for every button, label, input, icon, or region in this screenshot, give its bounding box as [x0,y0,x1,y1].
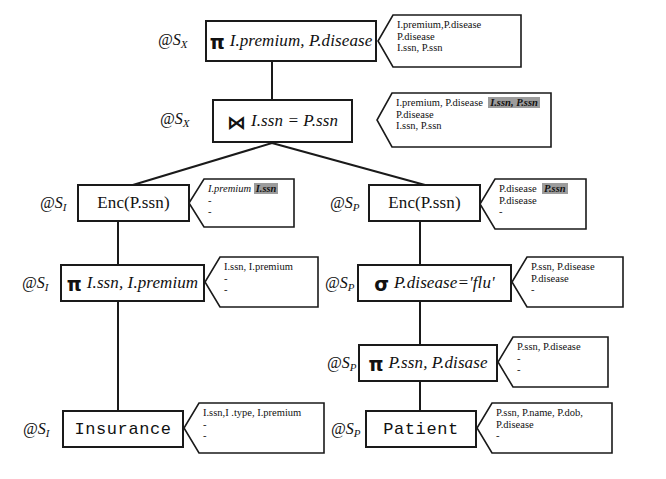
annotation-line-3: - [499,206,583,218]
annotation-line-2: P.disease [496,419,609,431]
annotation-line-3: I.ssn, P.ssn [396,120,548,132]
schema-tag-enc-left: @SI [40,194,66,213]
schema-tag-text: @S [325,274,348,291]
join-operator-icon: ⋈ [227,113,246,132]
projection-operator-icon: π [67,275,82,294]
annotation-line-3: - [224,284,315,296]
node-project-right[interactable]: π P.ssn, P.disase [358,344,498,382]
schema-tag-project-top: @SX [158,31,187,50]
annotation-enc-right: P.disease P.ssn P.disease - [479,178,587,230]
annotation-line-1: P.ssn, P.disease [517,341,605,353]
schema-tag-project-left: @SI [22,274,48,293]
node-expression-text: Enc(P.ssn) [97,193,169,212]
annotation-line-3: I.ssn, P.ssn [397,42,518,54]
schema-tag-subscript: I [45,281,49,293]
annotation-line-1-text: I.premium [208,183,251,194]
node-expression: Enc(P.ssn) [97,193,169,213]
node-expression: Patient [383,420,459,439]
schema-tag-subscript: X [183,117,190,129]
annotation-project-left: I.ssn, I.premium - - [204,256,319,308]
annotation-line-2: - [203,419,321,431]
annotation-line-1-text: I.ssn, I.premium [224,261,293,272]
annotation-join: I.premium, P.disease I.ssn, P.ssn P.dise… [376,92,552,148]
annotation-line-2: P.disease [499,195,583,207]
annotation-line-3: - [208,206,291,218]
schema-tag-patient: @SP [331,420,360,439]
node-expression: I.ssn, I.premium [87,273,198,293]
annotation-highlight: P.ssn [542,183,568,194]
annotation-line-1: I.premium, P.disease I.ssn, P.ssn [396,97,548,109]
annotation-select-right: P.ssn, P.disease P.disease - [511,256,624,308]
schema-tag-text: @S [40,194,63,211]
node-patient[interactable]: Patient [365,410,477,448]
annotation-highlight: I.ssn [254,183,279,194]
projection-operator-icon: π [210,33,225,52]
schema-tag-enc-right: @SP [330,194,359,213]
selection-operator-icon: σ [374,275,389,294]
schema-tag-subscript: I [46,427,50,439]
schema-tag-insurance: @SI [23,420,49,439]
schema-tag-text: @S [331,420,354,437]
annotation-line-3: - [517,364,605,376]
annotation-line-1-text: P.ssn, P.name, P.dob, [496,407,583,418]
schema-tag-subscript: P [353,201,360,213]
projection-operator-icon: π [368,355,383,374]
annotation-line-2: P.disease [397,31,518,43]
annotation-project-top: I.premium,P.disease P.disease I.ssn, P.s… [377,14,522,68]
node-expression: I.premium, P.disease [230,31,373,51]
annotation-line-2: - [208,195,291,207]
annotation-line-3: - [203,430,321,442]
annotation-line-1: I.premium,P.disease [397,19,518,31]
annotation-project-right: P.ssn, P.disease - - [497,336,609,388]
annotation-highlight: I.ssn, P.ssn [488,97,540,108]
node-project-top[interactable]: π I.premium, P.disease [205,20,377,62]
annotation-line-1: P.ssn, P.name, P.dob, [496,407,609,419]
annotation-patient: P.ssn, P.name, P.dob, P.disease - [476,402,613,454]
annotation-line-2: P.disease [396,109,548,121]
node-expression: Insurance [74,420,171,439]
node-expression: P.ssn, P.disase [388,353,487,373]
annotation-line-3: - [531,284,620,296]
annotation-line-1: I.ssn,I .type, I.premium [203,407,321,419]
diagram-canvas: @SX π I.premium, P.disease I.premium,P.d… [0,0,666,479]
annotation-line-2: P.disease [531,273,620,285]
annotation-line-1: P.ssn, P.disease [531,261,620,273]
annotation-line-2: - [224,273,315,285]
node-expression: P.disease='flu' [394,273,495,293]
node-expression: Enc(P.ssn) [388,193,460,213]
annotation-line-1-text: P.disease [499,183,537,194]
schema-tag-text: @S [330,194,353,211]
schema-tag-subscript: X [181,38,188,50]
annotation-line-1: I.ssn, I.premium [224,261,315,273]
annotation-line-3: - [496,430,609,442]
node-enc-left[interactable]: Enc(P.ssn) [77,184,190,222]
schema-tag-project-right: @SP [327,354,356,373]
schema-tag-subscript: P [348,281,355,293]
node-insurance[interactable]: Insurance [62,410,184,448]
node-enc-right[interactable]: Enc(P.ssn) [368,184,481,222]
annotation-line-1: I.premium I.ssn [208,183,291,195]
node-select-right[interactable]: σ P.disease='flu' [357,264,512,302]
schema-tag-subscript: I [63,201,67,213]
annotation-line-1-text: I.premium,P.disease [397,19,481,30]
schema-tag-subscript: P [354,427,361,439]
schema-tag-text: @S [22,274,45,291]
annotation-line-1-text: P.ssn, P.disease [531,261,595,272]
annotation-line-1-text: I.ssn,I .type, I.premium [203,407,301,418]
annotation-insurance: I.ssn,I .type, I.premium - - [183,402,325,454]
schema-tag-text: @S [160,110,183,127]
schema-tag-text: @S [23,420,46,437]
annotation-enc-left: I.premium I.ssn - - [188,178,295,228]
node-join[interactable]: ⋈ I.ssn = P.ssn [212,99,353,143]
annotation-line-1-text: P.ssn, P.disease [517,341,581,352]
schema-tag-join: @SX [160,110,189,129]
node-project-left[interactable]: π I.ssn, I.premium [60,264,205,302]
node-expression-text: Enc(P.ssn) [388,193,460,212]
schema-tag-text: @S [158,31,181,48]
annotation-line-1-text: I.premium, P.disease [396,97,483,108]
annotation-line-2: - [517,353,605,365]
schema-tag-text: @S [327,354,350,371]
annotation-line-1: P.disease P.ssn [499,183,583,195]
schema-tag-subscript: P [350,361,357,373]
node-expression: I.ssn = P.ssn [251,111,338,131]
